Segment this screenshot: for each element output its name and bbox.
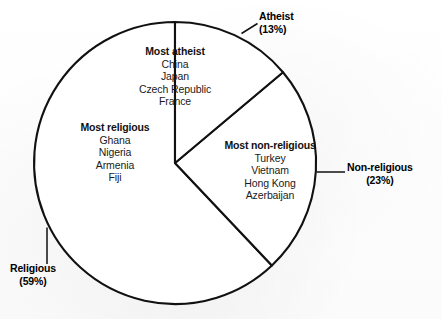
leader-line-atheist [242,24,258,34]
slice-inner-label-nonreligious: Most non-religious Turkey Vietnam Hong K… [196,139,344,202]
slice-inner-heading-atheist: Most atheist [110,45,240,58]
slice-inner-item: Turkey [196,152,344,165]
callout-name-nonreligious: Non-religious [347,161,413,173]
slice-inner-heading-nonreligious: Most non-religious [196,139,344,152]
slice-inner-label-atheist: Most atheist China Japan Czech Republic … [110,45,240,108]
callout-label-religious: Religious (59%) [10,262,56,287]
pie-chart-figure: Most atheist China Japan Czech Republic … [0,0,442,319]
slice-inner-heading-religious: Most religious [50,121,180,134]
callout-label-nonreligious: Non-religious (23%) [347,161,413,186]
callout-percent-nonreligious: (23%) [347,174,413,187]
slice-inner-label-religious: Most religious Ghana Nigeria Armenia Fij… [50,121,180,184]
slice-inner-item: Vietnam [196,164,344,177]
slice-inner-item: Azerbaijan [196,189,344,202]
callout-name-atheist: Atheist [259,10,294,22]
callout-percent-religious: (59%) [10,275,56,288]
slice-inner-item: France [110,95,240,108]
callout-percent-atheist: (13%) [259,23,294,36]
callout-name-religious: Religious [10,262,56,274]
callout-label-atheist: Atheist (13%) [259,10,294,35]
slice-inner-item: Hong Kong [196,177,344,190]
slice-inner-item: Japan [110,70,240,83]
slice-inner-item: Czech Republic [110,83,240,96]
slice-inner-item: China [110,58,240,71]
slice-inner-item: Armenia [50,159,180,172]
slice-inner-item: Fiji [50,171,180,184]
slice-inner-item: Nigeria [50,146,180,159]
slice-inner-item: Ghana [50,134,180,147]
